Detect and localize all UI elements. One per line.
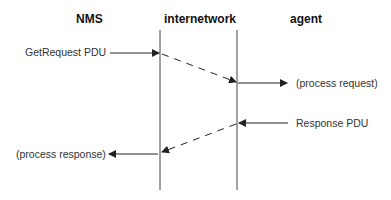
response-transit-dashed [162, 124, 236, 152]
diagram-lines [0, 0, 391, 200]
get-request-label: GetRequest PDU [25, 46, 106, 58]
response-label: Response PDU [296, 117, 368, 129]
process-response-label: (process response) [16, 148, 106, 160]
request-transit-dashed [162, 54, 236, 82]
process-request-label: (process request) [296, 77, 378, 89]
